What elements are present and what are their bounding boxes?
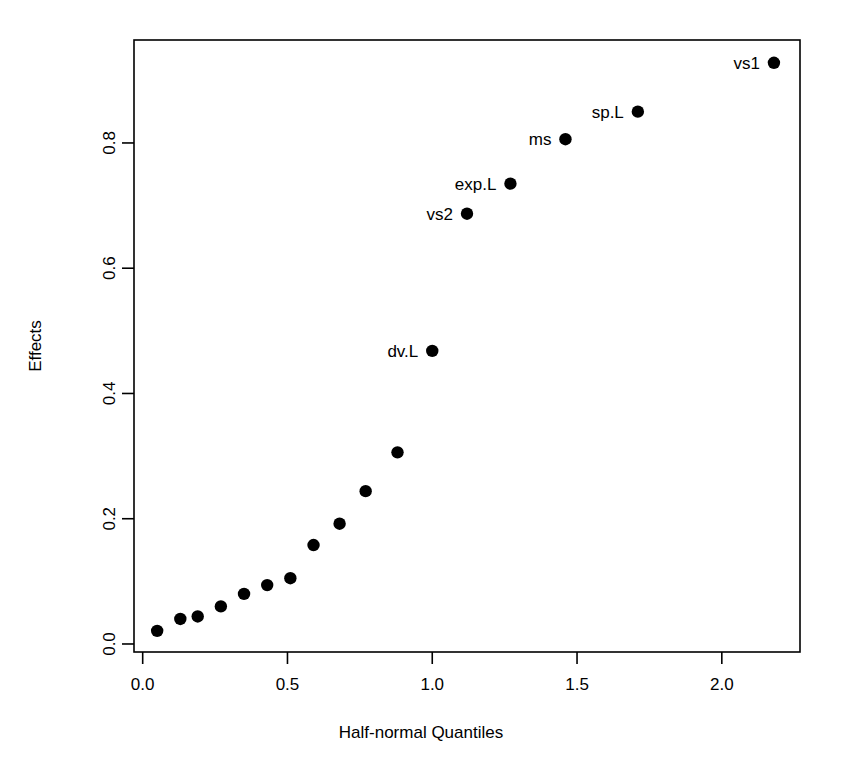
data-point	[151, 625, 163, 637]
y-tick-label: 0.4	[101, 382, 120, 406]
y-tick-label: 0.8	[101, 131, 120, 155]
data-point	[215, 600, 227, 612]
data-point	[192, 610, 204, 622]
data-point-label: dv.L	[387, 342, 418, 361]
x-axis-title: Half-normal Quantiles	[339, 723, 503, 742]
plot-background	[0, 0, 841, 777]
data-point-label: ms	[529, 130, 552, 149]
data-point	[559, 133, 571, 145]
data-point	[333, 518, 345, 530]
x-tick-label: 0.0	[131, 675, 155, 694]
y-tick-label: 0.0	[101, 632, 120, 656]
halfnormal-effects-scatter-plot: 0.00.20.40.60.8 0.00.51.01.52.0 dv.Lvs2e…	[0, 0, 841, 777]
data-point-label: exp.L	[455, 175, 497, 194]
x-tick-label: 0.5	[276, 675, 300, 694]
y-axis-title: Effects	[26, 320, 45, 372]
data-point	[307, 539, 319, 551]
data-point	[632, 105, 644, 117]
data-point	[768, 57, 780, 69]
data-point-label: vs2	[427, 205, 453, 224]
data-point-label: sp.L	[592, 103, 624, 122]
x-tick-label: 1.0	[420, 675, 444, 694]
halfnormal-plot-canvas: 0.00.20.40.60.8 0.00.51.01.52.0 dv.Lvs2e…	[0, 0, 841, 777]
data-point	[238, 588, 250, 600]
data-point-label: vs1	[733, 54, 759, 73]
data-point	[426, 345, 438, 357]
x-tick-label: 2.0	[710, 675, 734, 694]
data-point	[284, 572, 296, 584]
data-point	[391, 446, 403, 458]
data-point	[174, 613, 186, 625]
y-tick-label: 0.6	[101, 256, 120, 280]
data-point	[461, 208, 473, 220]
x-tick-label: 1.5	[565, 675, 589, 694]
data-point	[261, 579, 273, 591]
data-point	[504, 177, 516, 189]
data-point	[359, 485, 371, 497]
y-tick-label: 0.2	[101, 507, 120, 531]
